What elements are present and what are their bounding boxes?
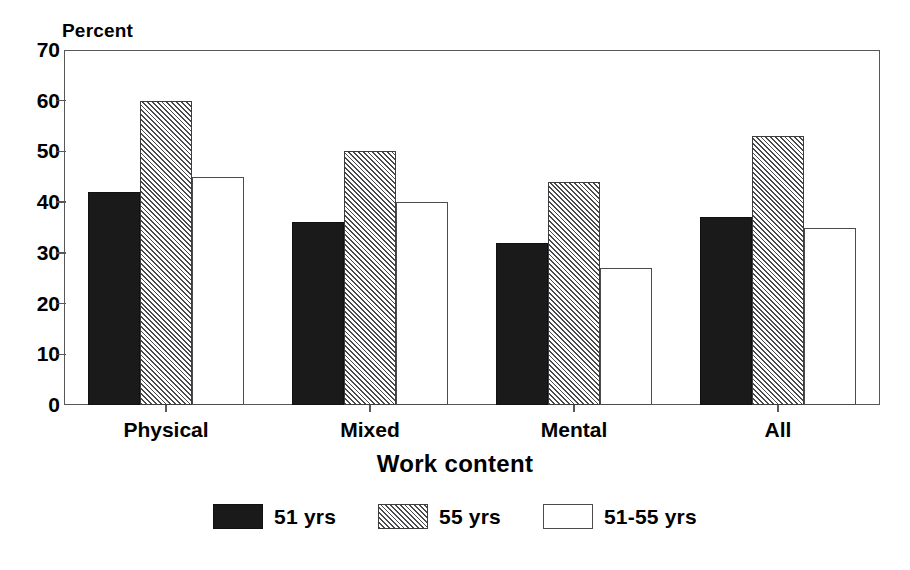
chart-legend: 51 yrs55 yrs51-55 yrs: [0, 504, 910, 529]
y-tick-label: 70: [6, 38, 60, 62]
legend-entry: 51-55 yrs: [543, 504, 697, 529]
x-axis-ticks: [64, 405, 880, 417]
x-axis-title: Work content: [0, 450, 910, 478]
legend-label: 51-55 yrs: [604, 505, 697, 529]
bar-mental-series-1: [548, 182, 600, 405]
y-tick-label: 20: [6, 292, 60, 316]
bar-chart: Percent 010203040506070 PhysicalMixedMen…: [0, 0, 910, 570]
y-tick-label: 10: [6, 342, 60, 366]
legend-entry: 55 yrs: [378, 504, 501, 529]
legend-label: 55 yrs: [439, 505, 501, 529]
bar-all-series-2: [804, 228, 856, 406]
bar-all-series-0: [700, 217, 752, 405]
legend-swatch: [543, 504, 593, 529]
y-tick-label: 40: [6, 190, 60, 214]
legend-entry: 51 yrs: [213, 504, 336, 529]
legend-swatch: [378, 504, 428, 529]
x-category-label: Mixed: [340, 418, 400, 442]
bar-physical-series-2: [192, 177, 244, 405]
x-tick-mark: [165, 405, 167, 412]
bar-mental-series-0: [496, 243, 548, 405]
x-tick-mark: [369, 405, 371, 412]
bar-all-series-1: [752, 136, 804, 405]
x-category-label: Mental: [541, 418, 608, 442]
legend-label: 51 yrs: [274, 505, 336, 529]
bar-mixed-series-0: [292, 222, 344, 405]
bar-physical-series-0: [88, 192, 140, 405]
x-category-label: All: [765, 418, 792, 442]
bars-layer: [64, 50, 880, 405]
y-tick-label: 30: [6, 241, 60, 265]
x-tick-mark: [573, 405, 575, 412]
y-axis: 010203040506070: [0, 0, 60, 570]
bar-mixed-series-1: [344, 151, 396, 405]
y-tick-label: 0: [6, 393, 60, 417]
y-axis-title: Percent: [62, 20, 133, 42]
x-tick-mark: [777, 405, 779, 412]
bar-physical-series-1: [140, 101, 192, 405]
x-category-label: Physical: [123, 418, 208, 442]
bar-mental-series-2: [600, 268, 652, 405]
legend-swatch: [213, 504, 263, 529]
y-tick-label: 60: [6, 89, 60, 113]
bar-mixed-series-2: [396, 202, 448, 405]
y-tick-label: 50: [6, 139, 60, 163]
